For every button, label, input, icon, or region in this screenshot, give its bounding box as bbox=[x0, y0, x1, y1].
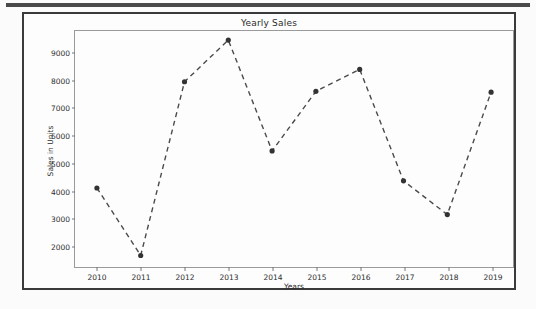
y-axis-tick-mark bbox=[72, 53, 76, 54]
x-axis-tick-mark bbox=[361, 267, 362, 271]
data-point-marker bbox=[445, 212, 450, 217]
chart-title: Yearly Sales bbox=[24, 18, 514, 28]
y-axis-tick-label: 7000 bbox=[51, 104, 70, 113]
x-axis-tick-label: 2013 bbox=[219, 273, 238, 282]
x-axis-tick-mark bbox=[493, 267, 494, 271]
y-axis-tick-label: 9000 bbox=[51, 49, 70, 58]
x-axis-tick-mark bbox=[141, 267, 142, 271]
x-axis-tick-label: 2015 bbox=[307, 273, 326, 282]
data-point-marker bbox=[94, 185, 99, 190]
x-axis-tick-mark bbox=[185, 267, 186, 271]
y-axis-tick-label: 2000 bbox=[51, 242, 70, 251]
data-point-marker bbox=[313, 89, 318, 94]
y-axis-tick-mark bbox=[72, 136, 76, 137]
page-top-rule bbox=[6, 3, 530, 7]
y-axis-tick-label: 4000 bbox=[51, 187, 70, 196]
figure-page: Yearly Sales Sales in Units Years 200030… bbox=[0, 0, 536, 309]
x-axis-label: Years bbox=[74, 282, 514, 291]
y-axis-tick-mark bbox=[72, 163, 76, 164]
x-axis-tick-label: 2017 bbox=[395, 273, 414, 282]
data-point-marker bbox=[489, 90, 494, 95]
x-axis-tick-label: 2014 bbox=[263, 273, 282, 282]
x-axis-tick-label: 2019 bbox=[483, 273, 502, 282]
data-point-marker bbox=[138, 253, 143, 258]
data-point-marker bbox=[401, 178, 406, 183]
data-point-marker bbox=[226, 37, 231, 42]
x-axis-tick-mark bbox=[273, 267, 274, 271]
y-axis-tick-label: 5000 bbox=[51, 159, 70, 168]
y-axis-tick-mark bbox=[72, 246, 76, 247]
x-axis-tick-label: 2010 bbox=[87, 273, 106, 282]
y-axis-tick-label: 8000 bbox=[51, 76, 70, 85]
data-point-marker bbox=[357, 67, 362, 72]
plot-area: 2000300040005000600070008000900020102011… bbox=[74, 30, 514, 268]
x-axis-tick-label: 2018 bbox=[439, 273, 458, 282]
x-axis-tick-mark bbox=[317, 267, 318, 271]
figure-frame: Yearly Sales Sales in Units Years 200030… bbox=[22, 12, 516, 290]
x-axis-tick-mark bbox=[405, 267, 406, 271]
x-axis-tick-label: 2016 bbox=[351, 273, 370, 282]
y-axis-tick-mark bbox=[72, 108, 76, 109]
x-axis-tick-mark bbox=[97, 267, 98, 271]
y-axis-tick-label: 6000 bbox=[51, 132, 70, 141]
y-axis-tick-mark bbox=[72, 80, 76, 81]
series-line bbox=[97, 40, 491, 255]
data-point-marker bbox=[182, 79, 187, 84]
x-axis-tick-label: 2012 bbox=[175, 273, 194, 282]
x-axis-tick-mark bbox=[449, 267, 450, 271]
x-axis-tick-label: 2011 bbox=[131, 273, 150, 282]
line-series-layer bbox=[75, 31, 513, 267]
y-axis-tick-mark bbox=[72, 191, 76, 192]
data-point-marker bbox=[270, 148, 275, 153]
y-axis-tick-mark bbox=[72, 219, 76, 220]
x-axis-tick-mark bbox=[229, 267, 230, 271]
y-axis-tick-label: 3000 bbox=[51, 215, 70, 224]
